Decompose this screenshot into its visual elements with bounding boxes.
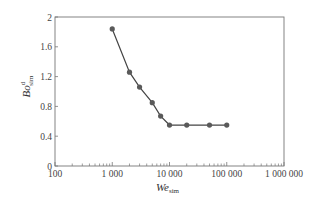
data-point-marker [184, 122, 189, 127]
data-point-marker [110, 26, 115, 31]
x-axis-title: Wesim [156, 181, 180, 195]
data-point-marker [158, 113, 163, 118]
plot-frame [55, 17, 284, 166]
y-tick-label: 1.2 [40, 72, 52, 82]
x-tick-label: 100 000 [211, 169, 242, 179]
chart: 00.40.81.21.62 1001 00010 000100 0001 00… [0, 0, 318, 204]
series-line [112, 29, 227, 125]
x-tick-label: 10 000 [156, 169, 182, 179]
x-tick-label: 1 000 000 [265, 169, 303, 179]
y-tick-label: 1.6 [40, 42, 52, 52]
data-point-marker [127, 70, 132, 75]
y-tick-label: 0.4 [40, 132, 52, 142]
y-tick-label: 0.8 [40, 102, 52, 112]
x-tick-label: 1 000 [102, 169, 124, 179]
data-point-marker [207, 122, 212, 127]
x-axis-ticks: 1001 00010 000100 0001 000 000 [48, 162, 303, 179]
x-tick-label: 100 [48, 169, 63, 179]
data-point-marker [167, 122, 172, 127]
y-axis-title: Bodsim [19, 75, 35, 97]
data-point-marker [150, 100, 155, 105]
data-point-marker [137, 84, 142, 89]
y-tick-label: 2 [47, 13, 52, 23]
data-series [110, 26, 230, 127]
data-point-marker [224, 122, 229, 127]
